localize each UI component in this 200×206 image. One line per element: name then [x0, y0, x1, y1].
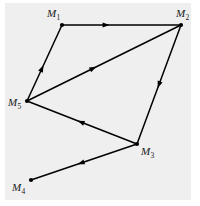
graph-edge-m5-m1: [27, 25, 62, 101]
node-label-subscript: 1: [56, 13, 60, 22]
node-label-m4: M4: [12, 182, 25, 193]
node-label-m1: M1: [47, 8, 60, 19]
node-label-base: M: [141, 145, 150, 157]
node-label-subscript: 2: [185, 13, 189, 22]
graph-node-dot-m3: [135, 142, 139, 146]
node-label-m3: M3: [141, 146, 154, 157]
node-dot-layer: [25, 23, 183, 182]
arrowhead-m5-m1: [38, 65, 43, 72]
node-label-subscript: 4: [21, 187, 25, 196]
node-label-base: M: [47, 7, 56, 19]
node-label-subscript: 3: [150, 151, 154, 160]
graph-node-dot-m1: [60, 23, 64, 27]
graph-node-dot-m2: [179, 23, 183, 27]
node-label-m5: M5: [8, 97, 21, 108]
graph-canvas: [0, 0, 200, 206]
arrowhead-m3-m4: [78, 159, 85, 164]
node-label-base: M: [176, 7, 185, 19]
graph-node-dot-m4: [29, 178, 33, 182]
graph-node-dot-m5: [25, 99, 29, 103]
arrowhead-m1-m2: [103, 22, 110, 27]
arrowhead-m5-m2: [89, 67, 96, 72]
node-label-base: M: [12, 181, 21, 193]
figure-root: M1M2M5M3M4: [0, 0, 200, 206]
node-label-m2: M2: [176, 8, 189, 19]
node-label-subscript: 5: [17, 102, 21, 111]
edge-layer: [27, 25, 181, 180]
arrowhead-m3-m5: [78, 121, 85, 126]
node-label-base: M: [8, 96, 17, 108]
arrowhead-m2-m3: [158, 81, 163, 88]
